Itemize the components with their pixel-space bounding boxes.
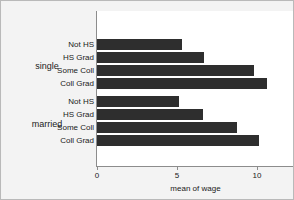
bar-married-not-hs [97,96,179,107]
x-tick-label: 0 [85,171,109,180]
x-tick-mark [177,166,178,170]
x-tick-mark [257,166,258,170]
bar-married-some-coll [97,122,237,133]
bar-married-hs-grad [97,109,203,120]
category-label: Not HS [68,96,94,107]
category-label: Some Coll [57,65,94,76]
chart-figure: single Not HS HS Grad Some Coll Coll Gra… [0,0,294,200]
x-tick-mark [97,166,98,170]
x-tick-label: 10 [245,171,269,180]
bar-married-coll-grad [97,135,259,146]
category-label: HS Grad [63,109,94,120]
category-label: Coll Grad [60,78,94,89]
category-label: Not HS [68,39,94,50]
bar-single-coll-grad [97,78,267,89]
bar-single-not-hs [97,39,182,50]
category-label: HS Grad [63,52,94,63]
x-tick-label: 5 [165,171,189,180]
x-axis-title: mean of wage [97,184,294,193]
bar-single-some-coll [97,65,254,76]
category-label: Coll Grad [60,135,94,146]
category-label: Some Coll [57,122,94,133]
bar-single-hs-grad [97,52,204,63]
